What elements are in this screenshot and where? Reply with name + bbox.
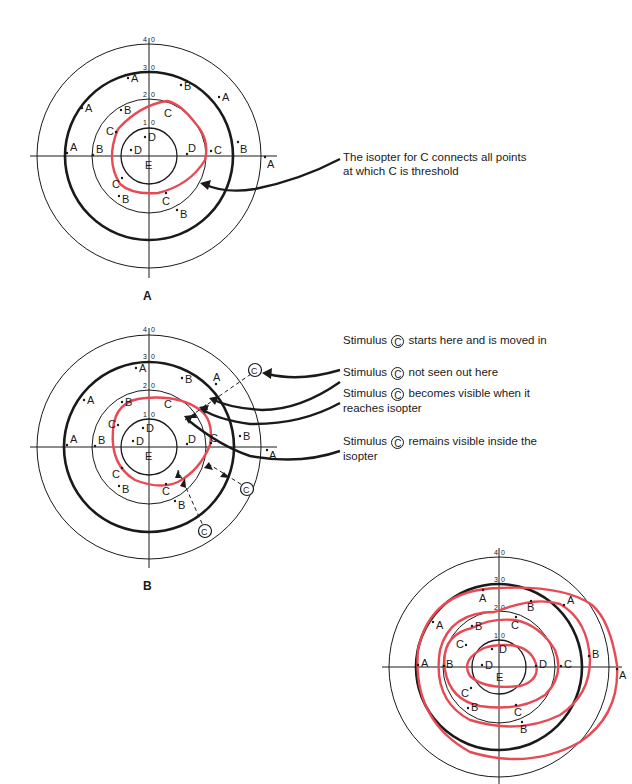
- svg-text:C: C: [106, 125, 114, 137]
- svg-text:0: 0: [151, 36, 155, 43]
- circled-c-icon: C: [391, 367, 404, 380]
- svg-text:E: E: [145, 159, 152, 171]
- svg-text:D: D: [146, 422, 154, 434]
- svg-text:C: C: [511, 619, 519, 631]
- svg-text:C: C: [456, 638, 464, 650]
- svg-text:0: 0: [151, 382, 155, 389]
- annotation-a: The isopter for C connects all points at…: [343, 150, 526, 178]
- svg-text:D: D: [539, 658, 547, 670]
- svg-text:B: B: [592, 648, 599, 660]
- svg-text:4: 4: [143, 326, 147, 333]
- svg-text:1: 1: [494, 632, 498, 639]
- note-prefix: Stimulus: [343, 334, 387, 346]
- svg-text:B: B: [243, 430, 250, 442]
- note-b-2: Stimulus C not seen out here: [343, 365, 498, 380]
- svg-text:A: A: [70, 433, 78, 445]
- svg-text:C: C: [164, 398, 172, 410]
- svg-text:A: A: [213, 371, 221, 383]
- svg-text:0: 0: [151, 411, 155, 418]
- svg-text:A: A: [267, 158, 275, 170]
- caption-a: A: [143, 289, 152, 303]
- note-prefix: Stimulus: [343, 387, 387, 399]
- circled-c-icon: C: [391, 436, 404, 449]
- svg-text:B: B: [446, 658, 453, 670]
- svg-text:D: D: [485, 659, 493, 671]
- annotation-a-line2: at which C is threshold: [343, 164, 526, 178]
- svg-text:C: C: [251, 366, 258, 376]
- svg-text:A: A: [85, 102, 93, 114]
- svg-text:C: C: [564, 658, 572, 670]
- svg-text:D: D: [134, 144, 142, 156]
- svg-text:B: B: [124, 104, 131, 116]
- svg-text:B: B: [180, 208, 187, 220]
- note-prefix: Stimulus: [343, 435, 387, 447]
- svg-text:0: 0: [501, 576, 505, 583]
- note-suffix: starts here and is moved in: [409, 334, 547, 346]
- svg-text:A: A: [87, 394, 95, 406]
- note-line2: reaches isopter: [343, 401, 530, 415]
- svg-text:2: 2: [143, 91, 147, 98]
- note-prefix: Stimulus: [343, 366, 387, 378]
- svg-text:4: 4: [143, 36, 147, 43]
- svg-text:C: C: [243, 485, 250, 495]
- svg-text:D: D: [136, 435, 144, 447]
- svg-text:C: C: [162, 195, 170, 207]
- svg-text:B: B: [96, 143, 103, 155]
- svg-text:C: C: [112, 178, 120, 190]
- svg-text:E: E: [145, 450, 152, 462]
- note-suffix: remains visible inside the: [409, 435, 537, 447]
- svg-text:0: 0: [501, 632, 505, 639]
- circled-c-icon: C: [391, 335, 404, 348]
- svg-text:4: 4: [494, 549, 498, 556]
- svg-text:A: A: [436, 619, 444, 631]
- svg-text:C: C: [162, 485, 170, 497]
- svg-text:0: 0: [151, 326, 155, 333]
- svg-text:A: A: [479, 592, 487, 604]
- svg-text:C: C: [461, 687, 469, 699]
- svg-text:D: D: [148, 131, 156, 143]
- svg-text:A: A: [222, 91, 230, 103]
- svg-text:C: C: [201, 527, 208, 537]
- svg-text:B: B: [527, 601, 534, 613]
- svg-text:B: B: [184, 80, 191, 92]
- svg-text:C: C: [164, 107, 172, 119]
- svg-text:A: A: [567, 594, 575, 606]
- svg-text:C: C: [514, 706, 522, 718]
- diagram-c: 40 30 20 10 A B A A B C C D A B D D C B …: [382, 548, 627, 784]
- note-b-4: Stimulus C remains visible inside the is…: [343, 434, 537, 463]
- svg-text:B: B: [178, 499, 185, 511]
- svg-text:0: 0: [151, 353, 155, 360]
- points-a: A B A A B C C D A B D D C B A E C B C B: [66, 72, 275, 220]
- points-c: A B A A B C C D A B D D C B A E C B C B: [417, 589, 627, 735]
- svg-text:A: A: [139, 362, 147, 374]
- svg-text:A: A: [619, 669, 627, 681]
- svg-text:B: B: [122, 193, 129, 205]
- note-b-1: Stimulus C starts here and is moved in: [343, 333, 547, 348]
- annotation-a-line1: The isopter for C connects all points: [343, 150, 526, 164]
- svg-text:B: B: [471, 701, 478, 713]
- svg-text:1: 1: [143, 411, 147, 418]
- svg-text:0: 0: [151, 91, 155, 98]
- svg-text:B: B: [520, 723, 527, 735]
- note-suffix: not seen out here: [409, 366, 499, 378]
- note-b-3: Stimulus C becomes visible when it reach…: [343, 386, 530, 415]
- svg-text:1: 1: [143, 119, 147, 126]
- note-suffix: becomes visible when it: [409, 387, 530, 399]
- svg-text:2: 2: [143, 382, 147, 389]
- svg-text:D: D: [188, 142, 196, 154]
- svg-text:B: B: [122, 483, 129, 495]
- note-line2: isopter: [343, 449, 537, 463]
- svg-text:B: B: [185, 373, 192, 385]
- svg-text:0: 0: [151, 119, 155, 126]
- isopter-figure: 40 30 20 10 A B A A B C C D A B D D C B …: [0, 0, 632, 784]
- svg-text:B: B: [475, 620, 482, 632]
- svg-text:A: A: [70, 141, 78, 153]
- diagram-b: 40 30 20 10 A B A A B C C D A B D D C B …: [30, 326, 340, 593]
- circled-c-icon: C: [391, 388, 404, 401]
- svg-text:B: B: [240, 143, 247, 155]
- svg-text:3: 3: [143, 64, 147, 71]
- svg-text:C: C: [214, 144, 222, 156]
- svg-text:D: D: [499, 643, 507, 655]
- svg-text:B: B: [125, 396, 132, 408]
- svg-text:A: A: [131, 72, 139, 84]
